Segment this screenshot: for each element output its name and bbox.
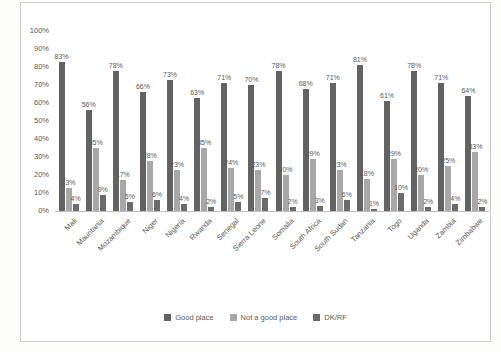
- bar-value-label: 61%: [380, 92, 394, 100]
- bar-value-label: 1%: [369, 200, 379, 208]
- bar-wrapper: 73%: [167, 80, 173, 211]
- bar: [445, 166, 451, 211]
- bar-wrapper: 2%: [290, 207, 296, 211]
- bar: [290, 207, 296, 211]
- bar-value-label: 3%: [315, 197, 325, 205]
- bar: [59, 62, 65, 211]
- bar-value-label: 2%: [477, 198, 487, 206]
- bar-value-label: 23%: [170, 161, 184, 169]
- bar-value-label: 71%: [326, 74, 340, 82]
- bar: [174, 170, 180, 211]
- legend-label: Not a good place: [241, 313, 298, 322]
- bar: [262, 198, 268, 211]
- x-axis-labels: MaliMauritaniaMozambiqueNigerNigeriaRwan…: [55, 213, 489, 273]
- bar-wrapper: 28%: [147, 161, 153, 211]
- y-axis-tick-label: 10%: [21, 189, 49, 197]
- bar-value-label: 9%: [98, 186, 108, 194]
- bar-wrapper: 71%: [438, 83, 444, 211]
- bar-wrapper: 6%: [154, 200, 160, 211]
- bar: [127, 202, 133, 211]
- bar-value-label: 5%: [125, 193, 135, 201]
- bar-wrapper: 63%: [194, 98, 200, 211]
- bar-value-label: 56%: [82, 101, 96, 109]
- bar: [93, 148, 99, 211]
- bar-wrapper: 78%: [411, 71, 417, 211]
- bar-value-label: 13%: [62, 179, 76, 187]
- bar: [73, 204, 79, 211]
- y-axis: 0%10%20%30%40%50%60%70%80%90%100%: [21, 31, 51, 211]
- bar-wrapper: 2%: [208, 207, 214, 211]
- bar-value-label: 23%: [251, 161, 265, 169]
- bar-value-label: 10%: [394, 184, 408, 192]
- bar-value-label: 66%: [136, 83, 150, 91]
- bar: [208, 207, 214, 211]
- bar-wrapper: 2%: [425, 207, 431, 211]
- bar-wrapper: 70%: [248, 85, 254, 211]
- bar-wrapper: 35%: [93, 148, 99, 211]
- y-axis-tick-label: 60%: [21, 99, 49, 107]
- x-axis-label: Somalia: [270, 217, 295, 242]
- y-axis-tick-label: 70%: [21, 81, 49, 89]
- x-axis-label: Mali: [63, 217, 78, 232]
- x-axis-label: Nigeria: [164, 217, 186, 239]
- x-axis-label: Togo: [387, 217, 404, 234]
- bar-value-label: 35%: [197, 139, 211, 147]
- bar-wrapper: 78%: [276, 71, 282, 211]
- bar-value-label: 23%: [333, 161, 347, 169]
- bar-group: 68%29%3%: [299, 31, 326, 211]
- bar: [235, 202, 241, 211]
- bar-value-label: 68%: [299, 80, 313, 88]
- bar-wrapper: 4%: [181, 204, 187, 211]
- y-axis-tick-label: 30%: [21, 153, 49, 161]
- bar-wrapper: 78%: [113, 71, 119, 211]
- bar-wrapper: 4%: [452, 204, 458, 211]
- bar-value-label: 18%: [360, 170, 374, 178]
- bar: [344, 200, 350, 211]
- bar-value-label: 20%: [414, 166, 428, 174]
- bar-group: 73%23%4%: [164, 31, 191, 211]
- bar-wrapper: 5%: [127, 202, 133, 211]
- y-axis-tick-label: 50%: [21, 117, 49, 125]
- bar-group: 64%33%2%: [462, 31, 489, 211]
- bar-value-label: 33%: [468, 143, 482, 151]
- bar-value-label: 29%: [387, 150, 401, 158]
- bar: [100, 195, 106, 211]
- bar-wrapper: 7%: [262, 198, 268, 211]
- bar: [86, 110, 92, 211]
- bar: [411, 71, 417, 211]
- chart-frame: 0%10%20%30%40%50%60%70%80%90%100% 83%13%…: [20, 2, 491, 342]
- legend-item: Good place: [164, 313, 213, 322]
- bar: [276, 71, 282, 211]
- legend-swatch-icon: [230, 314, 237, 321]
- bar-group: 78%20%2%: [272, 31, 299, 211]
- bar-value-label: 81%: [353, 56, 367, 64]
- bar-wrapper: 25%: [445, 166, 451, 211]
- bar: [167, 80, 173, 211]
- legend-item: DK/RF: [313, 313, 347, 322]
- bar-value-label: 25%: [441, 157, 455, 165]
- bar-group: 71%24%5%: [218, 31, 245, 211]
- bar: [479, 207, 485, 211]
- bar-value-label: 78%: [272, 62, 286, 70]
- bar: [465, 96, 471, 211]
- bar-wrapper: 4%: [73, 204, 79, 211]
- bar-wrapper: 23%: [174, 170, 180, 211]
- x-axis-label: Niger: [141, 217, 159, 235]
- bar-value-label: 7%: [260, 189, 270, 197]
- bar-wrapper: 56%: [86, 110, 92, 211]
- bar-value-label: 78%: [407, 62, 421, 70]
- bar: [221, 83, 227, 211]
- bar-value-label: 64%: [461, 87, 475, 95]
- bar-group: 70%23%7%: [245, 31, 272, 211]
- x-axis-label: Senegal: [216, 217, 241, 242]
- bar: [438, 83, 444, 211]
- bar-wrapper: 64%: [465, 96, 471, 211]
- bar-value-label: 4%: [71, 195, 81, 203]
- bar-wrapper: 6%: [344, 200, 350, 211]
- bar-value-label: 73%: [163, 71, 177, 79]
- bar-value-label: 83%: [55, 53, 69, 61]
- bar: [425, 207, 431, 211]
- bar: [330, 83, 336, 211]
- bar-wrapper: 81%: [357, 65, 363, 211]
- bar-group: 71%23%6%: [326, 31, 353, 211]
